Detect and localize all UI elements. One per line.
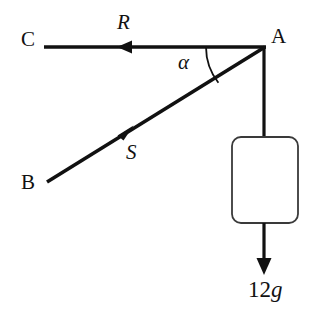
label-weight-symbol: g [271, 277, 283, 302]
label-force-s: S [126, 142, 137, 163]
hanging-block [232, 137, 298, 223]
label-point-b: B [21, 172, 35, 193]
label-point-c: C [21, 29, 35, 50]
label-angle-alpha: α [178, 52, 189, 73]
label-point-a: A [271, 26, 286, 47]
diagram-canvas [0, 0, 327, 321]
label-weight-number: 12 [248, 277, 271, 302]
weight-arrow-head [257, 258, 272, 275]
force-diagram: C A B R S α 12g [0, 0, 327, 321]
label-force-r: R [117, 12, 130, 33]
force-r-arrowhead [117, 41, 132, 54]
label-weight: 12g [248, 278, 283, 301]
